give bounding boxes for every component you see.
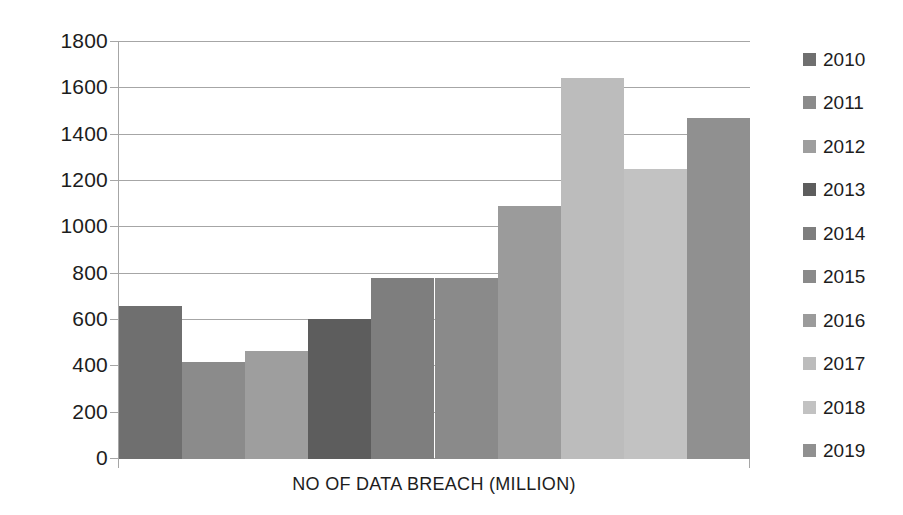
legend-swatch-icon	[803, 270, 816, 283]
legend-label: 2017	[823, 354, 865, 373]
y-axis-tick-label: 1800	[4, 30, 108, 51]
legend-swatch-icon	[803, 96, 816, 109]
y-axis-tick-mark	[110, 273, 119, 274]
legend-swatch-icon	[803, 227, 816, 240]
legend-swatch-icon	[803, 183, 816, 196]
x-axis-start-tick	[118, 459, 119, 468]
legend-item-2015[interactable]: 2015	[803, 266, 865, 288]
y-axis-tick-mark	[110, 412, 119, 413]
legend-item-2016[interactable]: 2016	[803, 309, 865, 331]
legend-swatch-icon	[803, 53, 816, 66]
bar-2015[interactable]	[435, 278, 498, 459]
y-axis: 180016001400120010008006004002000	[0, 0, 108, 515]
y-axis-tick-label: 200	[4, 401, 108, 422]
chart-legend: 2010201120122013201420152016201720182019	[803, 48, 899, 458]
y-axis-tick-mark	[110, 365, 119, 366]
bar-2017[interactable]	[561, 78, 624, 459]
bar-2012[interactable]	[245, 351, 308, 459]
x-axis-end-tick	[749, 459, 750, 468]
y-axis-tick-label: 600	[4, 308, 108, 329]
legend-item-2017[interactable]: 2017	[803, 353, 865, 375]
legend-item-2012[interactable]: 2012	[803, 135, 865, 157]
y-axis-tick-label: 1400	[4, 123, 108, 144]
y-axis-tick-label: 1200	[4, 169, 108, 190]
legend-label: 2016	[823, 311, 865, 330]
y-axis-tick-mark	[110, 180, 119, 181]
legend-swatch-icon	[803, 444, 816, 457]
legend-label: 2015	[823, 267, 865, 286]
legend-label: 2019	[823, 441, 865, 460]
y-axis-tick-mark	[110, 226, 119, 227]
legend-item-2014[interactable]: 2014	[803, 222, 865, 244]
bar-2010[interactable]	[119, 306, 182, 459]
legend-item-2018[interactable]: 2018	[803, 396, 865, 418]
legend-swatch-icon	[803, 357, 816, 370]
legend-item-2019[interactable]: 2019	[803, 440, 865, 462]
legend-label: 2018	[823, 398, 865, 417]
y-axis-tick-mark	[110, 87, 119, 88]
legend-label: 2011	[823, 93, 864, 112]
y-axis-tick-mark	[110, 41, 119, 42]
bar-2018[interactable]	[624, 169, 687, 459]
x-axis-title: NO OF DATA BREACH (MILLION)	[118, 473, 750, 495]
y-axis-tick-mark	[110, 134, 119, 135]
legend-item-2013[interactable]: 2013	[803, 179, 865, 201]
legend-item-2010[interactable]: 2010	[803, 48, 865, 70]
bar-2019[interactable]	[687, 118, 750, 459]
bars-layer	[119, 41, 750, 459]
legend-label: 2014	[823, 224, 865, 243]
y-axis-tick-label: 1600	[4, 76, 108, 97]
y-axis-tick-label: 400	[4, 354, 108, 375]
y-axis-tick-label: 1000	[4, 215, 108, 236]
y-axis-tick-label: 0	[4, 447, 108, 468]
bar-2011[interactable]	[182, 362, 245, 459]
y-axis-tick-mark	[110, 319, 119, 320]
legend-swatch-icon	[803, 140, 816, 153]
legend-swatch-icon	[803, 314, 816, 327]
bar-chart: 180016001400120010008006004002000 NO OF …	[0, 0, 903, 515]
legend-item-2011[interactable]: 2011	[803, 92, 864, 114]
bar-2016[interactable]	[498, 206, 561, 459]
legend-label: 2010	[823, 50, 865, 69]
legend-label: 2013	[823, 180, 865, 199]
bar-2014[interactable]	[371, 278, 434, 459]
y-axis-tick-label: 800	[4, 262, 108, 283]
y-axis-tick-mark	[110, 458, 119, 459]
legend-label: 2012	[823, 137, 865, 156]
legend-swatch-icon	[803, 401, 816, 414]
bar-2013[interactable]	[308, 319, 371, 459]
